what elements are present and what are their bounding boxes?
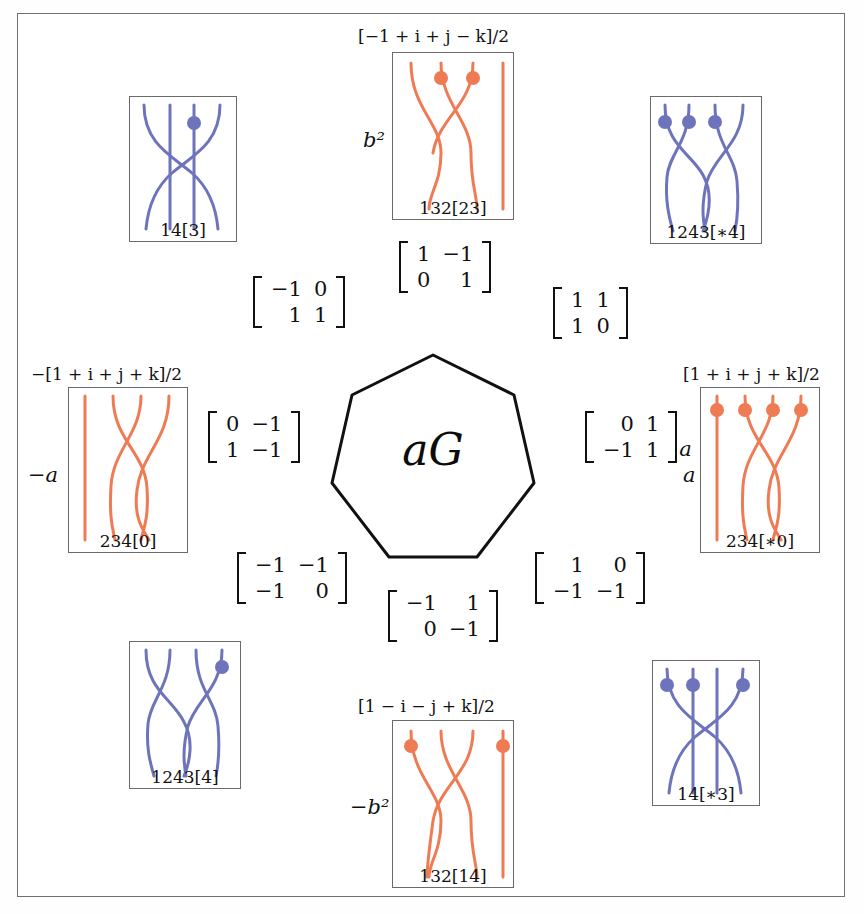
bracket-right xyxy=(489,590,498,642)
box-caption-left: 234[0] xyxy=(69,533,187,550)
quaternion-label-top-center: [−1 + i + j − k]/2 xyxy=(358,26,509,46)
matrix-cell: 0 xyxy=(597,411,640,437)
matrix-cell: 0 xyxy=(220,411,245,437)
braid-box-bottom-center[interactable]: 132[14] xyxy=(392,720,514,888)
matrix-cell: −1 xyxy=(292,552,335,578)
side-label-bottom-center: −b² xyxy=(350,795,389,819)
box-caption-bottom-center: 132[14] xyxy=(393,868,513,885)
bracket-left xyxy=(553,287,562,339)
matrix-cell: 0 xyxy=(292,578,335,604)
box-caption-top-center: 132[23] xyxy=(393,200,513,217)
matrix-upper-right: 1 1 1 0 xyxy=(553,287,628,339)
matrix-cell: −1 xyxy=(443,616,486,642)
matrix-cell: −1 xyxy=(400,590,443,616)
bracket-left xyxy=(388,590,397,642)
matrix-cell: −1 xyxy=(590,578,633,604)
matrix-top-center: 1 −1 0 1 xyxy=(399,241,491,293)
matrix-cell: 1 xyxy=(565,313,590,339)
matrix-cell: 0 xyxy=(411,267,436,293)
bracket-left xyxy=(585,411,594,463)
matrix-cell: −1 xyxy=(249,552,292,578)
bracket-right xyxy=(482,241,491,293)
matrix-cell: 0 xyxy=(400,616,443,642)
bracket-left xyxy=(237,552,246,604)
bracket-right xyxy=(619,287,628,339)
matrix-cell: 1 xyxy=(308,302,333,328)
braid-box-left[interactable]: 234[0] xyxy=(68,387,188,553)
bracket-left xyxy=(535,552,544,604)
figure-canvas: aG [−1 + i + j − k]/2 b² 132[23] xyxy=(0,0,864,914)
box-caption-top-left: 14[3] xyxy=(130,222,236,239)
matrix-cell: 1 xyxy=(265,302,308,328)
side-label-right: a xyxy=(683,463,696,487)
matrix-cell: 1 xyxy=(640,411,665,437)
center-label: aG xyxy=(328,424,538,475)
box-caption-right: 234[∗0] xyxy=(701,533,819,550)
matrix-cell: 1 xyxy=(565,287,590,313)
box-caption-bottom-left: 1243[4] xyxy=(130,769,240,786)
matrix-cell: −1 xyxy=(245,437,288,463)
bracket-right xyxy=(291,411,300,463)
matrix-left: 0 −1 1 −1 xyxy=(208,411,300,463)
box-caption-bottom-right: 14[∗3] xyxy=(653,786,759,803)
matrix-upper-left: −1 0 1 1 xyxy=(253,276,345,328)
braid-box-bottom-right[interactable]: 14[∗3] xyxy=(652,660,760,806)
side-label-top-center: b² xyxy=(363,128,385,152)
matrix-cell: 1 xyxy=(547,552,590,578)
matrix-bottom-center: −1 1 0 −1 xyxy=(388,590,498,642)
matrix-cell: −1 xyxy=(245,411,288,437)
matrix-lower-right: 1 0 −1 −1 xyxy=(535,552,645,604)
side-label-left: −a xyxy=(28,463,58,487)
bracket-right xyxy=(338,552,347,604)
matrix-cell: 0 xyxy=(308,276,333,302)
matrix-suffix-right: a xyxy=(677,437,692,463)
matrix-lower-left: −1 −1 −1 0 xyxy=(237,552,347,604)
matrix-cell: 1 xyxy=(220,437,245,463)
matrix-cell: −1 xyxy=(249,578,292,604)
matrix-cell: 1 xyxy=(590,287,615,313)
matrix-cell: 0 xyxy=(590,552,633,578)
bracket-right xyxy=(668,411,677,463)
matrix-cell: 0 xyxy=(590,313,615,339)
quaternion-label-right: [1 + i + j + k]/2 xyxy=(683,364,820,384)
matrix-cell: −1 xyxy=(547,578,590,604)
matrix-cell: 1 xyxy=(443,590,486,616)
matrix-cell: 1 xyxy=(640,437,665,463)
quaternion-label-left: −[1 + i + j + k]/2 xyxy=(31,364,182,384)
quaternion-label-bottom-center: [1 − i − j + k]/2 xyxy=(358,696,495,716)
bracket-left xyxy=(208,411,217,463)
matrix-cell: −1 xyxy=(265,276,308,302)
bracket-right xyxy=(636,552,645,604)
braid-box-top-center[interactable]: 132[23] xyxy=(392,52,514,220)
matrix-cell: 1 xyxy=(411,241,436,267)
bracket-left xyxy=(399,241,408,293)
bracket-right xyxy=(336,276,345,328)
bracket-left xyxy=(253,276,262,328)
matrix-cell: 1 xyxy=(436,267,479,293)
matrix-cell: −1 xyxy=(436,241,479,267)
braid-box-bottom-left[interactable]: 1243[4] xyxy=(129,641,241,789)
box-caption-top-right: 1243[∗4] xyxy=(651,224,761,241)
matrix-cell: −1 xyxy=(597,437,640,463)
braid-box-top-left[interactable]: 14[3] xyxy=(129,96,237,242)
braid-box-top-right[interactable]: 1243[∗4] xyxy=(650,96,762,244)
matrix-right: 0 1 −1 1 a xyxy=(585,411,692,463)
braid-box-right[interactable]: 234[∗0] xyxy=(700,387,820,553)
